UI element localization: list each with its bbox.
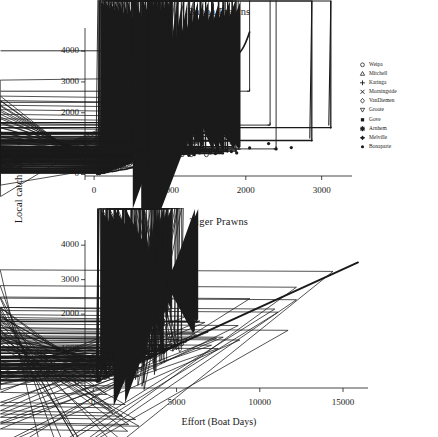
y-tick-label: 3000	[43, 274, 79, 284]
y-tick-label: 2000	[43, 107, 79, 117]
legend-item: Karinga	[358, 78, 438, 87]
square-filled-icon	[358, 115, 367, 124]
legend-label: Mitchell	[369, 69, 387, 78]
legend-item: Weipa	[358, 60, 438, 69]
circle-filled-icon	[358, 142, 367, 151]
circle-open-icon	[358, 60, 367, 69]
y-tick-label: 0	[43, 377, 79, 387]
x-tick-label: 0	[71, 397, 115, 407]
panel-banna-prawns: Banna Prawns WeipaMitchellKaringaMorning…	[0, 0, 438, 208]
y-tick-label: 0	[43, 168, 79, 178]
legend-label: Weipa	[369, 60, 383, 69]
x-tick-label: 10000	[238, 397, 282, 407]
legend-label: VanDiemen	[369, 96, 394, 105]
x-tick-label: 1000	[148, 185, 192, 195]
y-tick-label: 3000	[43, 76, 79, 86]
x-tick-label: 5000	[155, 397, 199, 407]
plus-icon	[358, 78, 367, 87]
y-tick-label: 1000	[43, 343, 79, 353]
y-tick-label: 1000	[43, 138, 79, 148]
legend-item: Morningside	[358, 87, 438, 96]
legend-label: Groote	[369, 105, 384, 114]
figure-prawns-catch-effort: Local catch (tonnes) Banna Prawns WeipaM…	[0, 0, 438, 437]
legend-label: Arnhem	[369, 124, 387, 133]
legend-label: Karinga	[369, 78, 386, 87]
legend-item: VanDiemen	[358, 96, 438, 105]
x-axis-label: Effort (Boat Days)	[0, 416, 438, 427]
legend-label: Bonaparte	[369, 142, 391, 151]
diamond-plus-filled-icon	[358, 133, 367, 142]
legend-label: Gove	[369, 115, 381, 124]
diamond-open-icon	[358, 96, 367, 105]
legend-item: Bonaparte	[358, 142, 438, 151]
legend-item: Mitchell	[358, 69, 438, 78]
x-tick-label: 0	[72, 185, 116, 195]
y-tick-label: 2000	[43, 308, 79, 318]
x-tick-label: 2000	[224, 185, 268, 195]
legend-label: Melville	[369, 133, 387, 142]
asterisk-filled-icon	[358, 124, 367, 133]
x-tick-label: 15000	[321, 397, 365, 407]
legend-item: Arnhem	[358, 124, 438, 133]
panel-tiger-prawns: Tiger Prawns WeipaMitchellKaringaMorning…	[0, 208, 438, 437]
legend-banna: WeipaMitchellKaringaMorningsideVanDiemen…	[358, 60, 438, 151]
cross-icon	[358, 87, 367, 96]
y-tick-label: 4000	[43, 45, 79, 55]
legend-item: Groote	[358, 105, 438, 114]
triangle-down-open-icon	[358, 105, 367, 114]
legend-item: Melville	[358, 133, 438, 142]
legend-label: Morningside	[369, 87, 397, 96]
y-tick-label: 4000	[43, 239, 79, 249]
x-tick-label: 3000	[300, 185, 344, 195]
triangle-up-open-icon	[358, 69, 367, 78]
legend-item: Gove	[358, 115, 438, 124]
